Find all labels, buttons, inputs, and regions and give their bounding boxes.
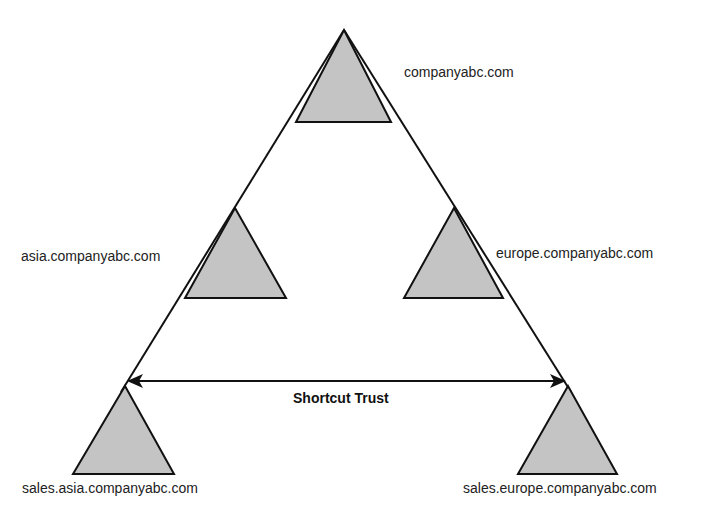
domain-triangle-root[interactable] bbox=[296, 30, 391, 122]
domain-label-asia: asia.companyabc.com bbox=[21, 248, 160, 264]
domain-label-europe: europe.companyabc.com bbox=[496, 245, 653, 261]
domain-triangle-asia[interactable] bbox=[185, 208, 286, 298]
tree-link-right bbox=[344, 30, 571, 392]
domain-label-sales-europe: sales.europe.companyabc.com bbox=[463, 480, 657, 496]
domain-label-root: companyabc.com bbox=[404, 64, 514, 80]
domain-triangle-sales-asia[interactable] bbox=[73, 386, 174, 474]
shortcut-trust-label: Shortcut Trust bbox=[293, 390, 389, 406]
domain-label-sales-asia: sales.asia.companyabc.com bbox=[22, 480, 198, 496]
domain-triangle-sales-europe[interactable] bbox=[518, 386, 617, 474]
domain-triangle-europe[interactable] bbox=[404, 208, 503, 298]
